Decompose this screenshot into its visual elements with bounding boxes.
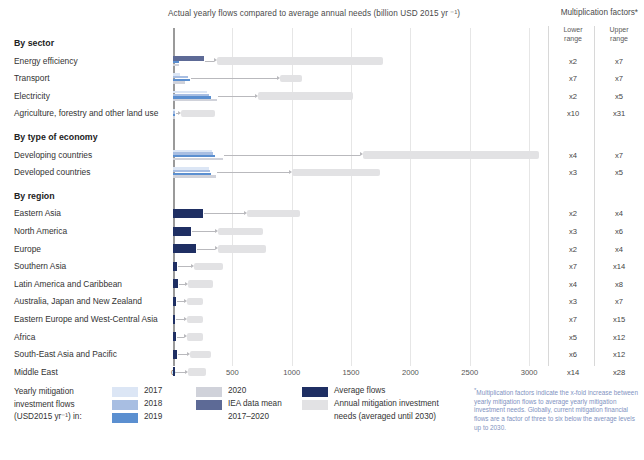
average-flows-bar bbox=[173, 279, 178, 288]
needs-bar bbox=[188, 280, 213, 288]
needs-bar bbox=[258, 92, 353, 100]
connector-arrow bbox=[215, 229, 218, 233]
table-row: Electricityx2x5 bbox=[0, 87, 644, 105]
needs-bar bbox=[187, 316, 202, 324]
legend-label-iea-line2: 2017–2020 bbox=[228, 411, 269, 424]
row-bars bbox=[173, 240, 541, 258]
mf-upper-value: x12 bbox=[598, 350, 640, 359]
legend-label-2019: 2019 bbox=[144, 411, 162, 424]
mf-lower-value: x2 bbox=[552, 244, 594, 253]
connector-arrow bbox=[214, 58, 217, 62]
needs-bar bbox=[217, 57, 383, 65]
connector-line bbox=[197, 249, 214, 250]
table-row: South-East Asia and Pacificx6x12 bbox=[0, 345, 644, 363]
mf-lower-value: x2 bbox=[552, 209, 594, 218]
table-row: Eastern Asiax2x4 bbox=[0, 204, 644, 222]
chart-group-3: By region bbox=[0, 187, 644, 205]
legend-swatch-2019 bbox=[112, 413, 138, 423]
average-flows-bar bbox=[173, 209, 203, 218]
row-label: Middle East bbox=[14, 367, 58, 377]
row-bars bbox=[173, 163, 541, 181]
needs-bar bbox=[190, 351, 211, 359]
flow-bar-y2020 bbox=[173, 99, 217, 101]
connector-line bbox=[205, 61, 214, 62]
row-label: Australia, Japan and New Zealand bbox=[14, 296, 142, 306]
iea-data-mean-bar bbox=[173, 56, 204, 61]
row-label: Energy efficiency bbox=[14, 56, 78, 66]
mf-lower-value: x3 bbox=[552, 227, 594, 236]
chart-axis-title: Actual yearly flows compared to average … bbox=[168, 8, 460, 18]
needs-bar bbox=[194, 263, 222, 271]
multiplication-factors-title: Multiplication factors* bbox=[561, 8, 638, 17]
needs-bar bbox=[181, 110, 214, 118]
legend-swatch-average-flows bbox=[302, 387, 328, 397]
chart-group-1: By sector bbox=[0, 34, 644, 52]
needs-bar bbox=[218, 228, 264, 236]
mf-lower-value: x14 bbox=[552, 367, 594, 376]
row-bars bbox=[173, 363, 541, 381]
mf-upper-value: x31 bbox=[598, 109, 640, 118]
average-flows-bar bbox=[173, 227, 191, 236]
row-bars bbox=[173, 146, 541, 164]
table-row: Transportx7x7 bbox=[0, 69, 644, 87]
connector-arrow bbox=[277, 76, 280, 80]
mf-upper-value: x4 bbox=[598, 244, 640, 253]
mf-lower-value: x7 bbox=[552, 262, 594, 271]
row-bars bbox=[173, 292, 541, 310]
mf-upper-value: x14 bbox=[598, 262, 640, 271]
row-bars bbox=[173, 345, 541, 363]
legend-title: Yearly mitigation investment flows (USD2… bbox=[14, 386, 106, 424]
table-row: Developing countriesx4x7 bbox=[0, 146, 644, 164]
legend-swatch-needs bbox=[302, 400, 328, 410]
legend-label-iea-line1: IEA data mean bbox=[228, 398, 282, 411]
mf-lower-value: x7 bbox=[552, 74, 594, 83]
mf-upper-value: x6 bbox=[598, 227, 640, 236]
row-bars bbox=[173, 310, 541, 328]
legend-label-2017: 2017 bbox=[144, 385, 162, 398]
flow-bar-y2020 bbox=[173, 158, 223, 160]
legend-swatch-2017 bbox=[112, 387, 138, 397]
mf-lower-value: x5 bbox=[552, 332, 594, 341]
row-bars bbox=[173, 104, 541, 122]
row-bars bbox=[173, 87, 541, 105]
connector-arrow bbox=[360, 152, 363, 156]
connector-line bbox=[179, 284, 186, 285]
chart-group-label: By type of economy bbox=[14, 132, 98, 142]
average-flows-bar bbox=[173, 315, 175, 324]
flow-bar-y2020 bbox=[173, 64, 179, 66]
row-label: Developed countries bbox=[14, 167, 90, 177]
footnote-text: Multiplication factors indicate the x-fo… bbox=[474, 389, 638, 430]
needs-bar bbox=[363, 151, 539, 159]
needs-bar bbox=[247, 210, 300, 218]
chart-group-2: By type of economy bbox=[0, 128, 644, 146]
mf-upper-value: x8 bbox=[598, 279, 640, 288]
row-bars bbox=[173, 328, 541, 346]
row-label: Eastern Asia bbox=[14, 208, 61, 218]
chart-group-label: By sector bbox=[14, 38, 54, 48]
connector-line bbox=[177, 337, 185, 338]
row-label: Electricity bbox=[14, 91, 50, 101]
connector-line bbox=[224, 155, 360, 156]
mf-upper-value: x4 bbox=[598, 209, 640, 218]
row-bars bbox=[173, 222, 541, 240]
table-row: Developed countriesx3x5 bbox=[0, 163, 644, 181]
table-row: Energy efficiencyx2x7 bbox=[0, 52, 644, 70]
flow-bar-y2020 bbox=[173, 175, 216, 177]
chart-legend: Yearly mitigation investment flows (USD2… bbox=[0, 384, 644, 460]
table-row: Middle Eastx14x28 bbox=[0, 363, 644, 381]
average-flows-bar bbox=[173, 350, 177, 359]
average-flows-bar bbox=[173, 332, 176, 341]
connector-arrow bbox=[244, 211, 247, 215]
mf-lower-value: x2 bbox=[552, 91, 594, 100]
legend-label-needs-line2: needs (averaged until 2030) bbox=[334, 411, 436, 424]
row-label: South-East Asia and Pacific bbox=[14, 349, 117, 359]
connector-arrow bbox=[184, 299, 187, 303]
mf-lower-value: x3 bbox=[552, 297, 594, 306]
table-row: Africax5x12 bbox=[0, 328, 644, 346]
mf-lower-value: x4 bbox=[552, 279, 594, 288]
connector-arrow bbox=[255, 94, 258, 98]
row-label: North America bbox=[14, 226, 67, 236]
needs-bar bbox=[280, 75, 303, 83]
table-row: Eastern Europe and West-Central Asiax7x1… bbox=[0, 310, 644, 328]
mf-upper-value: x7 bbox=[598, 56, 640, 65]
